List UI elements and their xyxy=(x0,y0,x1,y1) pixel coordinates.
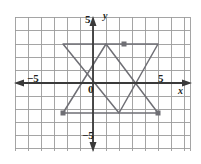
x-axis-tick-label-negative: −5 xyxy=(27,73,39,84)
vertex-marker-bottom-left xyxy=(61,111,66,116)
coordinate-grid-figure: 5 y −5 0 5 x −5 xyxy=(0,0,201,164)
y-axis-tick-label-positive: 5 xyxy=(85,14,91,25)
vertex-marker-top xyxy=(122,42,127,47)
x-axis-arrow-right xyxy=(182,80,192,87)
x-axis-tick-label-positive: 5 xyxy=(158,73,164,84)
y-axis-label: y xyxy=(103,11,107,21)
y-axis-arrow-down xyxy=(90,142,97,152)
x-axis-arrow-left xyxy=(14,80,24,87)
vertex-marker-bottom-right xyxy=(156,111,161,116)
x-axis-label: x xyxy=(178,86,183,96)
y-axis-tick-label-negative: −5 xyxy=(82,130,94,141)
origin-label: 0 xyxy=(88,84,94,95)
